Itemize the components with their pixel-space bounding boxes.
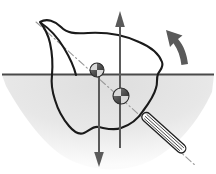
center-of-buoyancy-marker bbox=[113, 88, 129, 104]
stability-diagram-canvas bbox=[0, 0, 216, 174]
diagram-svg bbox=[0, 0, 216, 174]
righting-moment-curved-arrow bbox=[166, 30, 188, 65]
water-region bbox=[2, 75, 214, 169]
center-of-gravity-marker bbox=[90, 63, 104, 77]
